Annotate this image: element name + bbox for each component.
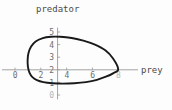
y-tick-label-0: 0 [49, 91, 54, 100]
x-axis-label-prey: prey [141, 65, 163, 75]
plot-canvas: 02468012345 predator prey [0, 0, 172, 110]
x-tick-label-0: 0 [13, 71, 18, 80]
y-tick-label-4: 4 [49, 41, 54, 50]
x-tick-label-6: 6 [90, 71, 95, 80]
plot-title-predator: predator [36, 4, 80, 14]
ticks-group: 02468012345 [13, 28, 121, 100]
x-tick-label-8: 8 [116, 71, 121, 80]
y-tick-label-3: 3 [49, 53, 54, 62]
x-tick-label-2: 2 [39, 71, 44, 80]
x-tick-label-4: 4 [64, 71, 69, 80]
y-tick-label-2: 2 [49, 66, 54, 75]
phase-plane-plot: 02468012345 predator prey [0, 0, 172, 110]
